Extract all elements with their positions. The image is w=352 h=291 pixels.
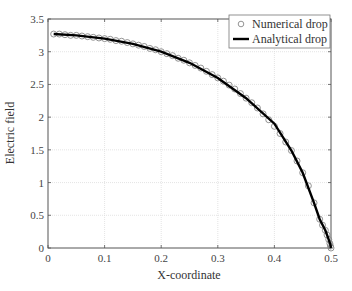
x-tick-label: 0.1 xyxy=(98,252,112,264)
x-tick-label: 0.5 xyxy=(324,252,338,264)
chart: 00.10.20.30.40.5 00.511.522.533.5 X-coor… xyxy=(0,0,352,291)
y-axis-label: Electric field xyxy=(3,102,17,164)
y-tick-label: 2.5 xyxy=(30,78,44,90)
x-tick-labels: 00.10.20.30.40.5 xyxy=(45,252,338,264)
legend-label-numerical: Numerical drop xyxy=(252,17,328,31)
x-tick-label: 0 xyxy=(45,252,51,264)
y-tick-label: 1.5 xyxy=(30,144,44,156)
y-tick-label: 1 xyxy=(39,177,45,189)
legend-label-analytical: Analytical drop xyxy=(252,32,327,46)
legend: Numerical drop Analytical drop xyxy=(229,15,330,48)
y-tick-label: 2 xyxy=(39,111,45,123)
y-tick-label: 3.5 xyxy=(30,13,44,25)
y-tick-label: 3 xyxy=(39,46,45,58)
x-tick-label: 0.3 xyxy=(211,252,225,264)
x-axis-label: X-coordinate xyxy=(157,268,220,282)
axis-ticks xyxy=(48,19,331,248)
plot-area-frame xyxy=(48,19,331,248)
y-tick-label: 0 xyxy=(39,242,45,254)
x-tick-label: 0.4 xyxy=(268,252,282,264)
x-tick-label: 0.2 xyxy=(154,252,168,264)
y-tick-label: 0.5 xyxy=(30,209,44,221)
grid-lines xyxy=(48,19,331,248)
y-tick-labels: 00.511.522.533.5 xyxy=(30,13,44,254)
